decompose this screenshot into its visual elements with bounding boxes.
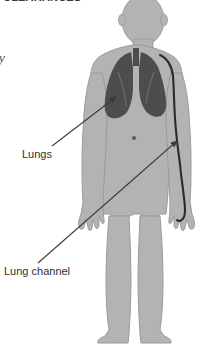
leg-left-shape bbox=[138, 216, 171, 343]
label-lung-channel: Lung channel bbox=[4, 266, 70, 277]
ear-left-icon bbox=[119, 14, 126, 26]
human-body-figure bbox=[0, 0, 216, 346]
ear-right-icon bbox=[161, 14, 168, 26]
navel-marker bbox=[132, 136, 136, 140]
trachea-shape bbox=[133, 48, 139, 66]
arm-right-shape bbox=[79, 73, 107, 231]
leg-right-shape bbox=[98, 216, 131, 343]
head-shape bbox=[122, 0, 164, 45]
diagram-canvas: CLEARANCES ry bbox=[0, 0, 216, 346]
arm-left-shape bbox=[166, 73, 194, 231]
label-lungs: Lungs bbox=[22, 149, 52, 160]
